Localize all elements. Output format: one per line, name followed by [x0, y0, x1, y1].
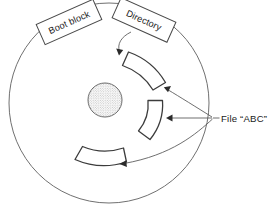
disk-hub	[88, 83, 122, 117]
disk-diagram-canvas: Boot block Directory File “ABC”	[0, 0, 277, 219]
disk-layout-figure: Boot block Directory File “ABC”	[0, 0, 277, 219]
file-abc-label: File “ABC”	[221, 113, 267, 124]
